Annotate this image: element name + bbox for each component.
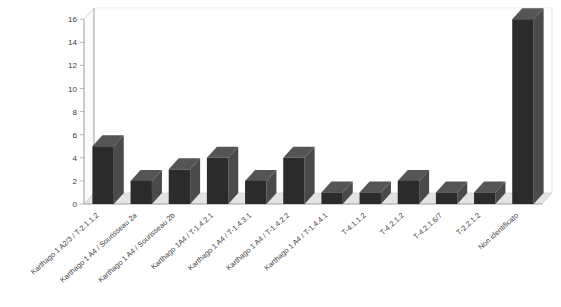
y-tick-label: 16 bbox=[68, 15, 77, 24]
back-wall bbox=[94, 8, 552, 193]
y-tick-label: 0 bbox=[73, 200, 78, 209]
bar-front-face bbox=[207, 158, 228, 204]
y-tick-label: 8 bbox=[73, 108, 78, 117]
bar bbox=[92, 135, 123, 204]
y-tick-label: 6 bbox=[73, 131, 78, 140]
x-axis-labels: Karthago 1 A2/3 / T-2.1.1.2Karthago 1 A4… bbox=[29, 210, 520, 284]
bar-front-face bbox=[283, 158, 304, 204]
bar-side-face bbox=[534, 8, 544, 204]
bar-front-face bbox=[169, 169, 190, 204]
bar-front-face bbox=[436, 192, 457, 204]
x-category-label: T-4.2.1.6/7 bbox=[412, 211, 444, 241]
bar-front-face bbox=[398, 181, 419, 204]
x-category-label: Karthago 1 A4 / T-1.4.2.2 bbox=[224, 211, 291, 273]
y-tick-label: 2 bbox=[73, 177, 78, 186]
x-category-label: Karthago 1 A2/3 / T-2.1.1.2 bbox=[29, 211, 101, 277]
bar-front-face bbox=[131, 181, 152, 204]
bar-front-face bbox=[92, 146, 113, 204]
chart-canvas: 0246810121416 Karthago 1 A2/3 / T-2.1.1.… bbox=[0, 0, 561, 307]
y-tick-label: 4 bbox=[73, 154, 78, 163]
x-category-label: Non identificato bbox=[476, 211, 520, 252]
bar-front-face bbox=[474, 192, 495, 204]
bar bbox=[283, 147, 314, 204]
y-tick-label: 12 bbox=[68, 61, 77, 70]
x-category-label: T-4.2.1.2 bbox=[378, 211, 406, 237]
bar-chart: 0246810121416 Karthago 1 A2/3 / T-2.1.1.… bbox=[0, 0, 561, 307]
x-category-label: T-2.2.1.2 bbox=[454, 211, 482, 237]
x-category-label: Karthago 1 A4 / T-1.4.4.1 bbox=[262, 211, 329, 273]
y-tick-label: 14 bbox=[68, 38, 77, 47]
x-category-label: Karthago 1 A4 / Sourisseau 2b bbox=[96, 211, 177, 285]
y-axis-ticks: 0246810121416 bbox=[68, 15, 84, 209]
x-category-label: T-4.1.1.2 bbox=[340, 211, 368, 237]
bar bbox=[512, 8, 543, 204]
bar-front-face bbox=[512, 19, 533, 204]
bar-side-face bbox=[114, 135, 124, 204]
bar-front-face bbox=[245, 181, 266, 204]
bar-front-face bbox=[360, 192, 381, 204]
y-tick-label: 10 bbox=[68, 85, 77, 94]
bar bbox=[207, 147, 238, 204]
bar bbox=[169, 158, 200, 204]
x-category-label: Karthago 1 A4 / T-1.4.3.1 bbox=[186, 211, 253, 273]
bar-front-face bbox=[321, 192, 342, 204]
x-category-label: Karthago 1A4 / T-1.4.2.1 bbox=[149, 211, 215, 271]
x-category-label: Karthago 1 A4 / Sourisseau 2a bbox=[58, 210, 139, 284]
